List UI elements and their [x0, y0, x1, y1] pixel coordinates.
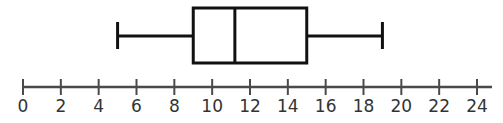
- tick-label: 2: [55, 96, 66, 116]
- box-plot-chart: 024681012141618202224: [0, 0, 503, 123]
- iqr-box: [193, 8, 307, 63]
- number-line-axis: 024681012141618202224: [18, 79, 492, 116]
- tick-label: 8: [169, 96, 180, 116]
- tick-label: 12: [239, 96, 261, 116]
- tick-label: 14: [277, 96, 299, 116]
- tick-label: 16: [315, 96, 337, 116]
- tick-label: 20: [391, 96, 413, 116]
- tick-label: 6: [131, 96, 142, 116]
- tick-label: 24: [466, 96, 488, 116]
- tick-label: 0: [18, 96, 29, 116]
- tick-label: 4: [93, 96, 104, 116]
- box-plot: [118, 8, 383, 63]
- tick-label: 18: [353, 96, 375, 116]
- tick-label: 22: [428, 96, 450, 116]
- tick-label: 10: [201, 96, 223, 116]
